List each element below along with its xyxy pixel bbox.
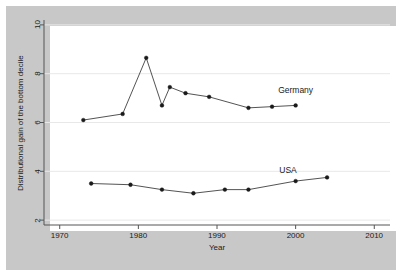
data-point <box>160 104 164 108</box>
x-tick-label: 2000 <box>287 231 305 240</box>
series-line <box>91 177 327 193</box>
series-label-germany: Germany <box>278 85 313 95</box>
data-point <box>247 106 251 110</box>
y-axis-title: Distributional gain of the bottom decile <box>16 55 25 191</box>
data-point <box>121 112 125 116</box>
y-tick-label: 4 <box>33 169 42 173</box>
data-point <box>270 105 274 109</box>
series-line <box>83 58 295 120</box>
data-point <box>144 56 148 60</box>
data-point <box>294 104 298 108</box>
x-tick-label: 1970 <box>51 231 69 240</box>
series-usa <box>89 176 329 196</box>
y-tick-label: 10 <box>32 20 41 29</box>
chart-figure: Distributional gain of the bottom decile… <box>0 0 402 276</box>
x-axis-title: Year <box>209 243 225 252</box>
x-tick-label: 2010 <box>365 231 383 240</box>
y-tick-label: 6 <box>33 120 42 124</box>
data-point <box>184 91 188 95</box>
data-point <box>192 191 196 195</box>
data-point <box>294 179 298 183</box>
data-point <box>325 176 329 180</box>
data-point <box>247 188 251 192</box>
data-point <box>207 95 211 99</box>
x-tick-label: 1980 <box>129 231 147 240</box>
data-point <box>168 85 172 89</box>
data-point <box>81 118 85 122</box>
data-point <box>129 183 133 187</box>
y-tick-label: 8 <box>33 71 42 75</box>
series-label-usa: USA <box>279 165 296 175</box>
data-point <box>160 188 164 192</box>
tick-marks <box>40 25 374 229</box>
x-tick-label: 1990 <box>208 231 226 240</box>
y-tick-label: 2 <box>33 218 42 222</box>
data-point <box>223 188 227 192</box>
series-germany <box>81 56 297 122</box>
data-point <box>89 182 93 186</box>
